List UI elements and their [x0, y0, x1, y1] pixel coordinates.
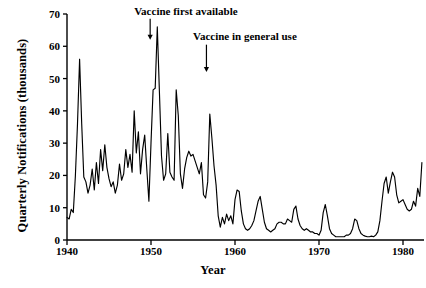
axis-lines	[67, 14, 424, 240]
chart-figure: Quarterly Notifications (thousands) Year…	[0, 0, 426, 288]
annotation-arrow-head-2	[204, 67, 209, 72]
data-series-line	[67, 27, 422, 237]
x-axis-ticks	[67, 240, 403, 245]
plot-area	[0, 0, 426, 288]
annotation-arrow-head-1	[148, 35, 153, 40]
